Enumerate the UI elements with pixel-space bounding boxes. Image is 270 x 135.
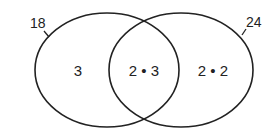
intersection-region-value: 2 • 3 [129,62,159,79]
set-24-label: 24 [246,14,262,30]
set-18-tick [44,31,49,37]
only-24-region-value: 2 • 2 [198,62,228,79]
set-18-label: 18 [30,15,46,31]
only-18-region-value: 3 [74,62,82,79]
venn-diagram: 18 24 3 2 • 3 2 • 2 [0,0,270,135]
